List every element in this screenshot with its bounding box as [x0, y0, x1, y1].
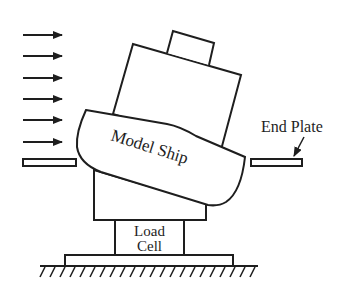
ground — [40, 266, 258, 277]
end-plate-label: End Plate — [261, 118, 323, 135]
wind-tunnel-diagram: Model Ship End Plate Load Cell — [0, 0, 358, 298]
end-plate-callout-arrow — [294, 137, 304, 156]
base-plate — [65, 255, 233, 266]
load-cell-label-line1: Load — [134, 223, 165, 239]
flow-arrows — [23, 35, 62, 142]
end-plate-right — [251, 159, 302, 166]
end-plate-left — [23, 159, 76, 166]
load-cell-label-line2: Cell — [137, 238, 162, 254]
